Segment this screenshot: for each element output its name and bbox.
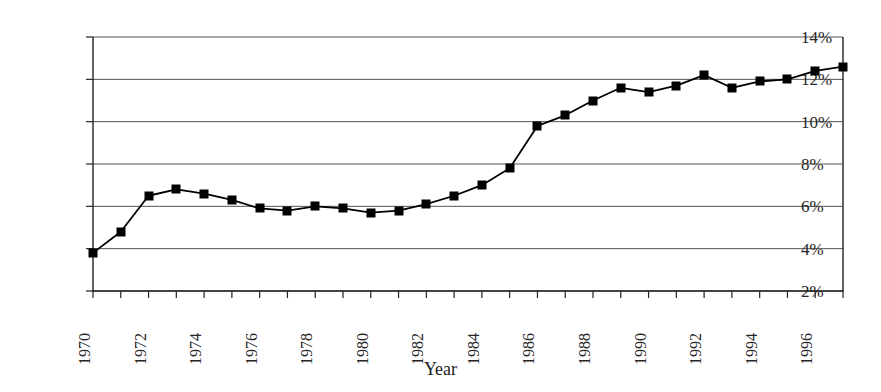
data-point-marker (311, 202, 320, 211)
data-point-marker (227, 195, 236, 204)
data-point-marker (339, 204, 348, 213)
y-axis-tick-label: 6% (801, 198, 881, 215)
data-point-marker (422, 200, 431, 209)
y-axis-tick-label: 14% (801, 29, 881, 46)
y-axis-tick-label: 2% (801, 283, 881, 300)
data-point-marker (839, 62, 848, 71)
data-point-marker (200, 189, 209, 198)
data-point-marker (172, 185, 181, 194)
data-point-marker (783, 75, 792, 84)
data-point-marker (616, 83, 625, 92)
data-point-marker (727, 83, 736, 92)
data-point-marker (477, 181, 486, 190)
data-point-marker (89, 248, 98, 257)
data-point-marker (450, 191, 459, 200)
data-point-marker (644, 88, 653, 97)
data-point-marker (255, 204, 264, 213)
x-axis-title: Year (0, 359, 881, 380)
y-axis-tick-label: 4% (801, 240, 881, 257)
data-point-marker (283, 206, 292, 215)
y-axis-tick-label: 8% (801, 156, 881, 173)
data-point-marker (366, 208, 375, 217)
line-chart: 2%4%6%8%10%12%14% 1970197219741976197819… (0, 0, 881, 392)
data-point-marker (700, 71, 709, 80)
data-point-marker (672, 81, 681, 90)
data-point-marker (755, 77, 764, 86)
data-point-marker (144, 191, 153, 200)
data-point-marker (394, 206, 403, 215)
y-axis-tick-label: 10% (801, 113, 881, 130)
data-point-marker (589, 96, 598, 105)
data-point-marker (561, 111, 570, 120)
data-point-marker (533, 121, 542, 130)
data-point-marker (505, 164, 514, 173)
data-line (93, 67, 843, 253)
data-point-marker (116, 227, 125, 236)
data-point-marker (811, 66, 820, 75)
